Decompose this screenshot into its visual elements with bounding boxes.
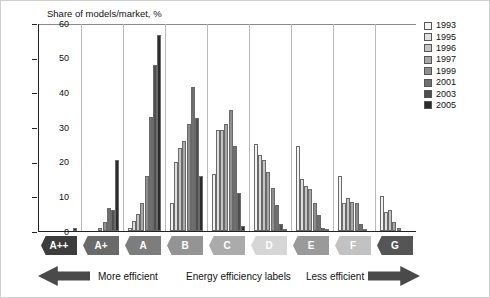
legend-label: 1993 <box>436 21 456 30</box>
legend-swatch <box>424 33 432 41</box>
legend-swatch <box>424 90 432 98</box>
efficiency-badge-aplusplus[interactable]: A++ <box>41 236 77 255</box>
legend-item-1995[interactable]: 1995 <box>424 31 486 42</box>
y-axis-tick-mark <box>32 93 37 94</box>
legend-item-1996[interactable]: 1996 <box>424 43 486 54</box>
efficiency-badge-e[interactable]: E <box>293 236 329 255</box>
chart-figure: Share of models/market, % 19931995199619… <box>0 0 490 298</box>
left-arrow-icon <box>38 266 90 286</box>
legend-swatch <box>424 44 432 52</box>
legend-item-1997[interactable]: 1997 <box>424 54 486 65</box>
bar-group-a <box>123 24 165 231</box>
y-axis-tick-label: 40 <box>47 89 69 98</box>
y-axis-tick-mark <box>32 59 37 60</box>
bar <box>73 228 77 231</box>
efficiency-badge-aplus[interactable]: A+ <box>83 236 119 255</box>
bar <box>157 35 161 231</box>
caption-row: More efficient Energy efficiency labels … <box>38 262 416 292</box>
y-axis-tick-mark <box>32 197 37 198</box>
bar <box>241 226 245 231</box>
legend-item-2005[interactable]: 2005 <box>424 100 486 111</box>
legend-label: 2005 <box>436 101 456 110</box>
bar-group-c <box>207 24 249 231</box>
y-axis-tick-mark <box>32 24 37 25</box>
y-axis-tick-label: 50 <box>47 54 69 63</box>
bar-group-f <box>333 24 375 231</box>
right-arrow-icon <box>368 266 420 286</box>
legend-item-1993[interactable]: 1993 <box>424 20 486 31</box>
legend-item-1999[interactable]: 1999 <box>424 66 486 77</box>
bar-group-b <box>165 24 207 231</box>
caption-axis-title: Energy efficiency labels <box>186 271 291 283</box>
efficiency-badge-d[interactable]: D <box>251 236 287 255</box>
y-axis-tick-label: 60 <box>47 20 69 29</box>
legend-swatch <box>424 56 432 64</box>
efficiency-badge-b[interactable]: B <box>167 236 203 255</box>
legend-swatch <box>424 101 432 109</box>
legend: 19931995199619971999200120032005 <box>424 20 486 111</box>
efficiency-badge-a[interactable]: A <box>125 236 161 255</box>
legend-swatch <box>424 22 432 30</box>
y-axis-tick-label: 0 <box>47 228 69 237</box>
plot-area <box>38 24 416 232</box>
y-axis-tick-label: 30 <box>47 124 69 133</box>
y-axis-tick-mark <box>32 128 37 129</box>
bar <box>283 229 287 231</box>
efficiency-badge-f[interactable]: F <box>335 236 371 255</box>
legend-label: 1997 <box>436 55 456 64</box>
caption-less-efficient: Less efficient <box>306 271 364 283</box>
legend-item-2003[interactable]: 2003 <box>424 88 486 99</box>
bar <box>199 176 203 231</box>
legend-label: 1995 <box>436 33 456 42</box>
y-axis-tick-mark <box>32 163 37 164</box>
bar-group-d <box>249 24 291 231</box>
bar <box>397 228 401 231</box>
legend-label: 1996 <box>436 44 456 53</box>
bar <box>325 229 329 231</box>
efficiency-badge-c[interactable]: C <box>209 236 245 255</box>
efficiency-badge-row: A++A+ABCDEFG <box>38 236 416 258</box>
caption-more-efficient: More efficient <box>98 271 158 283</box>
legend-label: 1999 <box>436 67 456 76</box>
bar-group-g <box>375 24 417 231</box>
bar-group-aplus <box>81 24 123 231</box>
y-axis-tick-label: 20 <box>47 158 69 167</box>
legend-swatch <box>424 79 432 87</box>
y-axis-tick-mark <box>32 232 37 233</box>
legend-label: 2003 <box>436 90 456 99</box>
legend-swatch <box>424 67 432 75</box>
legend-item-2001[interactable]: 2001 <box>424 77 486 88</box>
bar-group-e <box>291 24 333 231</box>
bar <box>363 229 367 231</box>
bar <box>115 160 119 231</box>
legend-label: 2001 <box>436 78 456 87</box>
efficiency-badge-g[interactable]: G <box>377 236 413 255</box>
y-axis-tick-label: 10 <box>47 193 69 202</box>
y-axis-label: Share of models/market, % <box>47 8 162 19</box>
